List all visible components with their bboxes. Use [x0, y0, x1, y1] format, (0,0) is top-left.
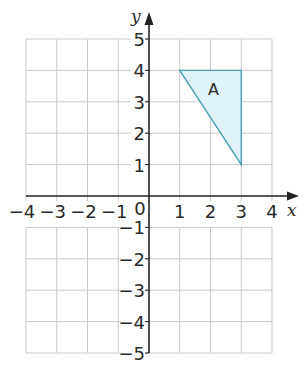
y-tick-label: 1 — [134, 155, 145, 176]
x-axis-label: x — [287, 200, 297, 220]
y-tick-label: 5 — [134, 29, 145, 50]
axes — [26, 12, 299, 353]
coordinate-grid-diagram: A −4−3−2−1123454321−1−2−3−4−5 x y 0 — [0, 0, 305, 385]
y-axis-label: y — [130, 6, 141, 26]
y-tick-label: 4 — [134, 60, 145, 81]
x-tick-label: 2 — [205, 201, 216, 222]
x-tick-label: 1 — [174, 201, 185, 222]
x-tick-label: −2 — [70, 201, 97, 222]
y-tick-label: 3 — [134, 92, 145, 113]
y-tick-label: −3 — [118, 280, 145, 301]
shape-label: A — [208, 80, 219, 99]
y-tick-label: −2 — [118, 249, 145, 270]
y-tick-label: 2 — [134, 123, 145, 144]
x-tick-label: −4 — [9, 201, 36, 222]
grid-svg: A −4−3−2−1123454321−1−2−3−4−5 x y 0 — [0, 0, 305, 385]
origin-label: 0 — [134, 198, 145, 219]
x-tick-label: 4 — [266, 201, 277, 222]
y-axis-arrow-icon — [145, 12, 154, 25]
x-tick-label: 3 — [236, 201, 247, 222]
y-tick-label: −4 — [118, 312, 145, 333]
y-tick-label: −1 — [118, 217, 145, 238]
y-tick-label: −5 — [118, 343, 145, 364]
x-tick-label: −3 — [39, 201, 66, 222]
